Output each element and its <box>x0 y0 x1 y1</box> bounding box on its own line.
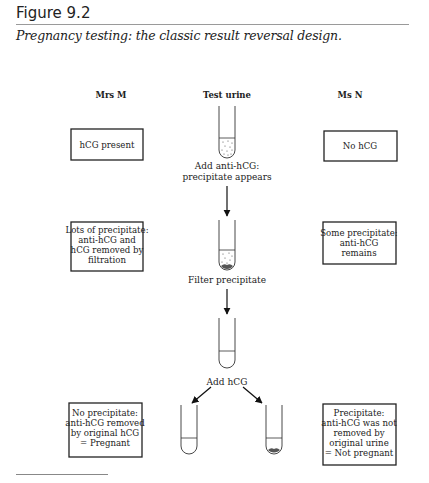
test-tube-icon <box>181 405 197 454</box>
svg-text:= Not pregnant: = Not pregnant <box>325 448 394 458</box>
result-box-mrs-m-pregnant: No precipitate: anti-hCG removed by orig… <box>65 403 145 457</box>
svg-text:hCG removed by: hCG removed by <box>71 245 144 255</box>
svg-text:filtration: filtration <box>88 255 127 265</box>
flow-diagram: Mrs M Test urine Ms N Add anti-hCG: prec… <box>0 0 429 483</box>
result-box-mrs-m-lots-precipitate: Lots of precipitate: anti-hCG and hCG re… <box>65 222 148 271</box>
svg-text:hCG present: hCG present <box>80 140 135 150</box>
step-add-anti-hcg-line1: Add anti-hCG: <box>194 161 260 171</box>
svg-text:Lots of precipitate:: Lots of precipitate: <box>65 225 148 235</box>
svg-text:anti-hCG and: anti-hCG and <box>78 235 136 245</box>
result-box-ms-n-no-hcg: No hCG <box>324 131 397 161</box>
test-tube-icon <box>219 318 235 368</box>
svg-text:anti-hCG: anti-hCG <box>340 238 379 248</box>
svg-text:Some precipitate:: Some precipitate: <box>320 228 398 238</box>
svg-text:remains: remains <box>341 248 376 258</box>
svg-text:original urine: original urine <box>329 438 388 448</box>
svg-text:by original hCG: by original hCG <box>71 428 140 438</box>
test-tube-icon <box>219 106 235 158</box>
column-header-ms-n: Ms N <box>338 90 363 100</box>
svg-text:No precipitate:: No precipitate: <box>72 408 138 418</box>
svg-text:anti-hCG removed: anti-hCG removed <box>65 418 145 428</box>
arrow-down-left-icon <box>192 387 211 403</box>
test-tube-icon <box>266 405 282 454</box>
result-box-mrs-m-hcg-present: hCG present <box>71 129 143 160</box>
svg-text:No hCG: No hCG <box>343 141 378 151</box>
result-box-ms-n-not-pregnant: Precipitate: anti-hCG was not removed by… <box>321 404 397 465</box>
svg-text:anti-hCG was not: anti-hCG was not <box>321 418 397 428</box>
step-add-anti-hcg-line2: precipitate appears <box>182 172 272 182</box>
arrow-down-right-icon <box>243 387 262 403</box>
svg-text:Precipitate:: Precipitate: <box>334 408 385 418</box>
result-box-ms-n-some-precipitate: Some precipitate: anti-hCG remains <box>320 222 398 264</box>
column-header-mrs-m: Mrs M <box>95 90 127 100</box>
svg-text:removed by: removed by <box>333 428 384 438</box>
svg-text:= Pregnant: = Pregnant <box>80 438 131 448</box>
step-add-hcg: Add hCG <box>206 377 248 387</box>
step-filter-precipitate: Filter precipitate <box>188 275 266 285</box>
footnote-divider <box>16 474 108 475</box>
column-header-test-urine: Test urine <box>203 90 251 100</box>
test-tube-icon <box>219 220 235 270</box>
